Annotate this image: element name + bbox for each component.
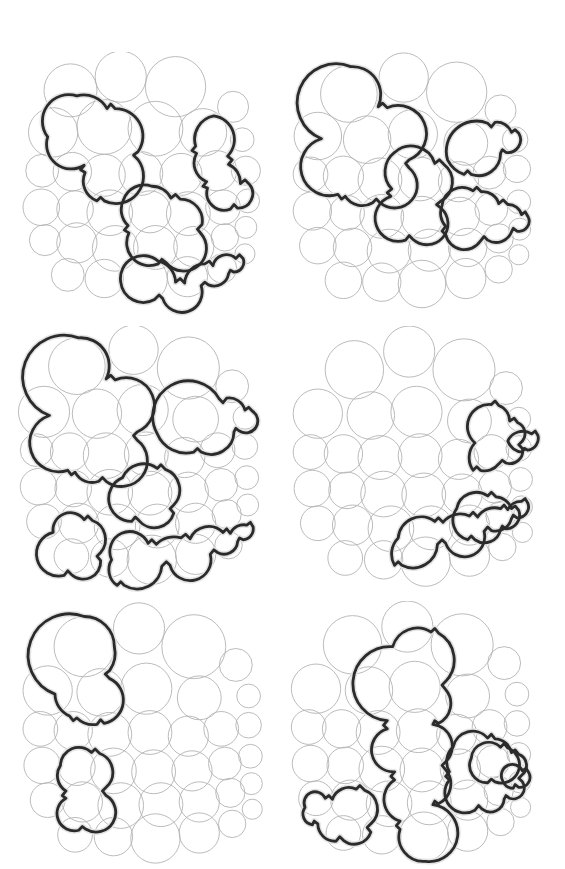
packing-circle — [325, 262, 362, 299]
packing-circle — [239, 744, 263, 768]
packing-circle — [293, 435, 328, 470]
packing-circle — [400, 748, 444, 792]
packing-circle — [173, 396, 219, 442]
packing-circle — [333, 228, 371, 266]
packing-circle — [391, 386, 442, 437]
cluster-boundary-curve — [42, 95, 143, 204]
packing-circle — [504, 711, 530, 737]
packing-panel-3 — [8, 326, 291, 600]
packing-svg — [8, 601, 291, 869]
packing-circle — [384, 326, 435, 377]
packing-circle — [363, 263, 401, 301]
packing-circle — [324, 435, 362, 473]
packing-circle — [29, 225, 60, 256]
packing-circle — [347, 392, 394, 439]
packing-circle — [51, 258, 84, 291]
packing-circle — [329, 472, 366, 509]
cluster-boundary-group — [303, 628, 530, 861]
packing-circle — [218, 810, 245, 837]
packing-circle — [237, 684, 261, 708]
packing-circle — [322, 710, 360, 748]
packing-circle — [132, 750, 176, 794]
packing-circle — [219, 648, 252, 681]
packing-circle-group — [18, 326, 258, 584]
packing-panel-1 — [8, 52, 291, 326]
packing-circle — [332, 505, 372, 545]
packing-circle — [294, 470, 331, 507]
packing-circle — [293, 389, 342, 438]
curve-halo-group — [392, 401, 539, 568]
packing-circle — [358, 436, 402, 480]
packing-circle — [367, 229, 411, 273]
packing-circle — [139, 783, 183, 827]
packing-circle — [50, 433, 88, 471]
packing-circle — [77, 669, 124, 716]
packing-circle — [325, 341, 383, 399]
packing-circle — [162, 615, 226, 679]
packing-circle — [291, 664, 340, 713]
packing-circle — [179, 782, 219, 822]
packing-circle — [509, 468, 533, 492]
cluster-boundary-curve — [28, 614, 123, 725]
packing-circle — [109, 326, 158, 374]
packing-circle — [235, 216, 257, 238]
packing-circle — [402, 473, 446, 517]
packing-circle — [49, 338, 106, 395]
packing-circle — [57, 223, 97, 263]
packing-circle — [328, 541, 363, 576]
packing-circle — [145, 57, 205, 117]
packing-circle — [300, 227, 337, 264]
packing-circle — [23, 189, 60, 226]
packing-circle — [300, 506, 335, 541]
packing-circle — [358, 158, 402, 202]
packing-circle-group — [293, 53, 530, 308]
packing-circle — [204, 712, 239, 747]
packing-circle — [291, 710, 326, 745]
packing-circle — [431, 614, 493, 676]
packing-circle — [95, 52, 146, 102]
packing-circle — [20, 468, 57, 505]
packing-circle — [485, 256, 512, 283]
packing-circle — [323, 616, 381, 674]
packing-circle — [242, 799, 262, 819]
packing-circle — [235, 466, 259, 490]
packing-circle — [361, 471, 407, 517]
packing-circle — [128, 711, 172, 755]
packing-circle — [398, 260, 445, 307]
packing-circle — [54, 539, 89, 574]
packing-panel-6 — [280, 601, 563, 869]
packing-circle — [237, 494, 259, 516]
packing-circle — [128, 471, 172, 515]
packing-circle — [327, 747, 364, 784]
curve-halo-group — [42, 95, 252, 313]
packing-circle — [205, 468, 238, 501]
packing-circle — [427, 62, 487, 122]
packing-panel-2 — [280, 52, 563, 326]
packing-svg — [280, 326, 563, 600]
packing-circle-group — [293, 326, 532, 586]
packing-panel-5 — [8, 601, 291, 869]
packing-circle — [505, 682, 529, 706]
packing-circle — [509, 245, 529, 265]
packing-circle — [398, 434, 442, 478]
packing-circle — [323, 156, 363, 196]
packing-circle — [28, 108, 77, 157]
packing-circle — [72, 389, 121, 438]
packing-panel-4 — [280, 326, 563, 600]
packing-svg — [8, 52, 291, 326]
packing-svg — [280, 601, 563, 869]
packing-circle — [503, 155, 530, 182]
packing-circle — [121, 663, 172, 714]
cluster-boundary-group — [42, 95, 252, 313]
packing-circle — [23, 712, 58, 747]
packing-circle-group — [291, 601, 530, 861]
packing-circle — [433, 339, 495, 401]
packing-circle — [211, 224, 238, 251]
packing-circle — [62, 782, 102, 822]
packing-circle — [240, 773, 262, 795]
packing-circle — [236, 712, 262, 738]
packing-circle — [168, 716, 208, 756]
packing-circle — [343, 116, 390, 163]
packing-circle — [477, 745, 510, 778]
